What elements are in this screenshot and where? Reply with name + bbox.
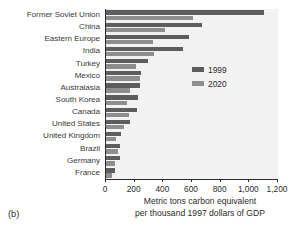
x-axis-title: Metric tons carbon equivalent per thousa… [105, 196, 295, 219]
category-label: Eastern Europe [44, 33, 100, 45]
x-axis-title-line-1: Metric tons carbon equivalent [105, 196, 295, 208]
bar-2020 [106, 88, 130, 92]
x-tick-label: 200 [127, 184, 141, 194]
x-tick-label: 0 [103, 184, 108, 194]
bar-2020 [106, 101, 127, 105]
x-axis-title-line-2: per thousand 1997 dollars of GDP [105, 208, 295, 220]
panel-label: (b) [8, 209, 19, 219]
legend-item: 2020 [192, 78, 227, 89]
y-axis-category-labels: Former Soviet UnionChinaEastern EuropeIn… [0, 9, 103, 179]
x-tick [105, 179, 106, 182]
legend-swatch-icon [192, 81, 204, 86]
category-label: China [79, 21, 100, 33]
bar-row [106, 118, 278, 130]
bar-2020 [106, 149, 118, 153]
bar-row [106, 33, 278, 45]
category-label: Mexico [75, 70, 100, 82]
category-label: United Kingdom [43, 130, 100, 142]
category-label: Brazil [80, 143, 100, 155]
bar-1999 [106, 120, 130, 124]
bar-1999 [106, 47, 183, 51]
bar-1999 [106, 144, 120, 148]
bar-row [106, 130, 278, 142]
bar-row [106, 143, 278, 155]
x-tick-label: 600 [184, 184, 198, 194]
bar-1999 [106, 23, 202, 27]
chart-legend: 19992020 [192, 64, 227, 92]
bar-2020 [106, 40, 153, 44]
category-label: United States [52, 118, 100, 130]
bar-row [106, 21, 278, 33]
bar-1999 [106, 132, 121, 136]
bar-row [106, 9, 278, 21]
x-tick [162, 179, 163, 182]
x-tick [134, 179, 135, 182]
x-tick [191, 179, 192, 182]
x-tick-label: 400 [155, 184, 169, 194]
bar-2020 [106, 52, 154, 56]
bar-1999 [106, 71, 141, 75]
category-label: Australasia [61, 82, 101, 94]
category-label: India [83, 45, 100, 57]
bar-1999 [106, 156, 120, 160]
bar-1999 [106, 168, 115, 172]
bar-2020 [106, 137, 116, 141]
x-tick [220, 179, 221, 182]
bar-1999 [106, 59, 148, 63]
legend-label: 2020 [208, 79, 227, 89]
x-tick-label: 800 [213, 184, 227, 194]
bar-2020 [106, 28, 165, 32]
bar-1999 [106, 95, 138, 99]
bar-2020 [106, 125, 124, 129]
bar-2020 [106, 64, 136, 68]
legend-swatch-icon [192, 67, 204, 72]
bar-2020 [106, 76, 140, 80]
category-label: Canada [72, 106, 100, 118]
x-tick-label: 1,000 [238, 184, 259, 194]
legend-label: 1999 [208, 65, 227, 75]
figure-panel-b: Former Soviet UnionChinaEastern EuropeIn… [0, 0, 295, 235]
category-label: Former Soviet Union [27, 9, 100, 21]
plot-area [105, 9, 278, 179]
bar-2020 [106, 16, 193, 20]
bar-2020 [106, 161, 115, 165]
x-tick [248, 179, 249, 182]
bar-row [106, 167, 278, 179]
x-tick [277, 179, 278, 182]
bar-row [106, 45, 278, 57]
bar-row [106, 94, 278, 106]
bar-2020 [106, 113, 129, 117]
bar-1999 [106, 10, 264, 14]
category-label: Turkey [76, 58, 100, 70]
bar-1999 [106, 83, 140, 87]
bar-2020 [106, 173, 112, 177]
bar-row [106, 106, 278, 118]
x-tick-label: 1,200 [267, 184, 288, 194]
legend-item: 1999 [192, 64, 227, 75]
category-label: Germany [67, 155, 100, 167]
bar-1999 [106, 108, 137, 112]
category-label: South Korea [56, 94, 100, 106]
category-label: France [75, 167, 100, 179]
bar-row [106, 155, 278, 167]
bar-1999 [106, 35, 189, 39]
